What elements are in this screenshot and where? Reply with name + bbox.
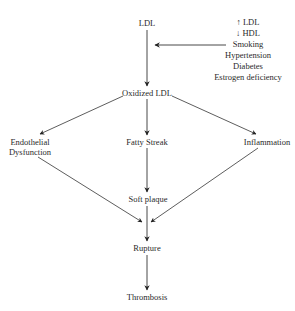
node-thrombosis: Thrombosis bbox=[127, 292, 168, 302]
edge-oxidized-inflammation bbox=[172, 96, 256, 134]
risk-factor-smoking: Smoking bbox=[214, 39, 282, 50]
risk-factor-diabetes: Diabetes bbox=[214, 61, 282, 72]
endothelial-line-2: Dysfunction bbox=[9, 147, 51, 157]
risk-factor-low-hdl: ↓ HDL bbox=[214, 28, 282, 39]
risk-factor-hypertension: Hypertension bbox=[214, 50, 282, 61]
node-oxidized-ldl: Oxidized LDL bbox=[122, 88, 172, 98]
risk-factors-list: ↑ LDL ↓ HDL Smoking Hypertension Diabete… bbox=[214, 17, 282, 83]
edge-oxidized-endothelial bbox=[40, 96, 123, 134]
edge-inflammation-rupture bbox=[151, 148, 258, 222]
risk-factor-high-ldl: ↑ LDL bbox=[214, 17, 282, 28]
node-inflammation: Inflammation bbox=[244, 137, 290, 147]
node-soft-plaque: Soft plaque bbox=[129, 194, 168, 204]
edge-endothelial-rupture bbox=[38, 157, 142, 222]
node-ldl: LDL bbox=[139, 18, 156, 28]
endothelial-line-1: Endothelial bbox=[9, 137, 51, 147]
node-endothelial-dysfunction: Endothelial Dysfunction bbox=[9, 137, 51, 157]
node-fatty-streak: Fatty Streak bbox=[126, 137, 167, 147]
node-rupture: Rupture bbox=[133, 243, 160, 253]
risk-factor-estrogen-deficiency: Estrogen deficiency bbox=[214, 72, 282, 83]
